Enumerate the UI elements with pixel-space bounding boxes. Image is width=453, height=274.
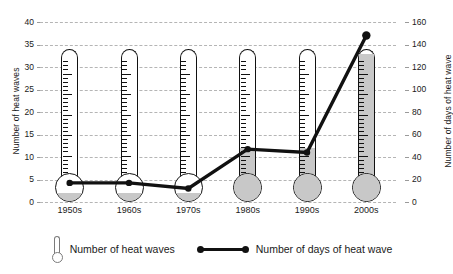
axis-tick-label: 10 (18, 153, 34, 162)
axis-tick-mark (405, 157, 409, 158)
y-axis-right-title: Number of days of heat wave (443, 49, 453, 173)
axis-tick-mark (405, 67, 409, 68)
x-axis-tick-label: 1950s (40, 205, 100, 215)
axis-tick-label: 5 (18, 175, 34, 184)
axis-tick-label: 40 (412, 153, 432, 162)
axis-tick-mark (405, 112, 409, 113)
data-line (70, 36, 367, 189)
axis-tick-mark (405, 90, 409, 91)
x-axis-tick-label: 1990s (277, 205, 337, 215)
axis-tick-mark (405, 135, 409, 136)
axis-tick-label: 40 (18, 18, 34, 27)
plot-area (40, 22, 396, 202)
axis-tick-label: 15 (18, 130, 34, 139)
line-marker-icon (197, 244, 249, 254)
data-point-marker (126, 180, 132, 186)
axis-tick-mark (405, 45, 409, 46)
axis-tick-label: 0 (18, 198, 34, 207)
axis-tick-label: 20 (18, 108, 34, 117)
x-axis-labels: 1950s1960s1970s1980s1990s2000s (40, 205, 396, 219)
axis-tick-label: 25 (18, 85, 34, 94)
gridline (40, 202, 396, 203)
axis-tick-mark (405, 22, 409, 23)
axis-tick-label: 0 (412, 198, 432, 207)
axis-tick-label: 20 (412, 175, 432, 184)
data-point-marker (66, 180, 72, 186)
axis-tick-mark (405, 180, 409, 181)
axis-tick-label: 140 (412, 40, 432, 49)
axis-tick-mark (405, 202, 409, 203)
x-axis-tick-label: 2000s (336, 205, 396, 215)
x-axis-tick-label: 1970s (158, 205, 218, 215)
x-axis-tick-label: 1960s (99, 205, 159, 215)
axis-tick-label: 80 (412, 108, 432, 117)
legend-label-heat-waves: Number of heat waves (70, 243, 175, 255)
legend-label-days-of-heat-wave: Number of days of heat wave (256, 243, 393, 255)
data-point-marker (304, 149, 310, 155)
axis-tick-label: 160 (412, 18, 432, 27)
axis-tick-label: 30 (18, 63, 34, 72)
x-axis-tick-label: 1980s (218, 205, 278, 215)
chart-legend: Number of heat waves Number of days of h… (0, 232, 444, 266)
axis-tick-label: 60 (412, 130, 432, 139)
data-point-marker (185, 185, 191, 191)
axis-tick-label: 120 (412, 63, 432, 72)
data-point-marker (362, 31, 370, 39)
legend-item-heat-waves: Number of heat waves (52, 236, 175, 263)
thermometer-icon (52, 236, 63, 263)
axis-tick-label: 100 (412, 85, 432, 94)
legend-item-days-of-heat-wave: Number of days of heat wave (197, 243, 393, 255)
line-series (40, 22, 396, 202)
axis-tick-label: 35 (18, 40, 34, 49)
data-point-marker (244, 146, 250, 152)
